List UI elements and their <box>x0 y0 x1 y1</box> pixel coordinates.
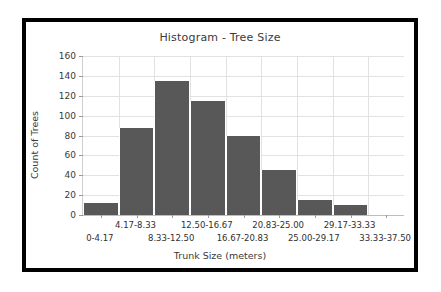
figure-canvas: Histogram - Tree Size Count of Trees 020… <box>26 22 414 268</box>
y-tick-label-0: 0 <box>70 210 76 220</box>
y-tick-label-120: 120 <box>59 91 76 101</box>
plot-area: 020406080100120140160 <box>82 56 404 216</box>
y-tick-label-80: 80 <box>65 131 76 141</box>
y-tick-label-60: 60 <box>65 150 76 160</box>
figure-frame: Histogram - Tree Size Count of Trees 020… <box>22 18 418 272</box>
bar <box>190 101 226 215</box>
bar <box>83 203 119 215</box>
x-tick-label-3: 12.50-16.67 <box>181 220 233 230</box>
y-axis-title: Count of Trees <box>29 111 40 179</box>
y-tick-label-160: 160 <box>59 51 76 61</box>
x-tick-label-8: 33.33-37.50 <box>359 233 411 243</box>
x-axis-title: Trunk Size (meters) <box>26 250 414 261</box>
bar <box>261 170 297 215</box>
y-tick-mark-0 <box>79 215 83 216</box>
bar <box>297 200 333 215</box>
y-tick-label-100: 100 <box>59 111 76 121</box>
x-tick-label-5: 20.83-25.00 <box>252 220 304 230</box>
x-tick-label-1: 4.17-8.33 <box>115 220 156 230</box>
bar <box>119 128 155 215</box>
x-tick-label-4: 16.67-20.83 <box>217 233 269 243</box>
y-tick-label-20: 20 <box>65 190 76 200</box>
x-tick-label-7: 29.17-33.33 <box>324 220 376 230</box>
bars-group <box>83 56 404 215</box>
x-tick-label-0: 0-4.17 <box>86 233 113 243</box>
x-tick-label-2: 8.33-12.50 <box>148 233 194 243</box>
y-tick-label-40: 40 <box>65 170 76 180</box>
bar <box>333 205 369 215</box>
x-tick-label-6: 25.00-29.17 <box>288 233 340 243</box>
y-tick-label-140: 140 <box>59 71 76 81</box>
bar <box>226 136 262 216</box>
x-axis-tick-labels: 0-4.174.17-8.338.33-12.5012.50-16.6716.6… <box>82 218 404 252</box>
chart-title: Histogram - Tree Size <box>26 31 414 44</box>
bar <box>154 81 190 215</box>
